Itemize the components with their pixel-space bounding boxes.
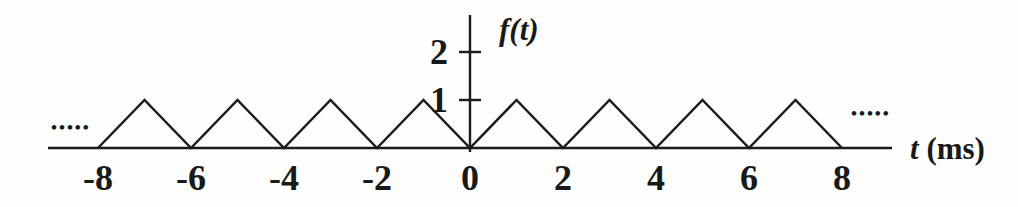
t-axis-tick-label-0: 0	[461, 158, 479, 198]
t-axis-label-unit: (ms)	[919, 131, 985, 166]
t-axis-tick-label-2: 2	[554, 158, 572, 198]
f-axis-tick-label-2: 2	[430, 32, 448, 72]
t-axis-tick-label--4: -4	[269, 158, 299, 198]
t-axis-label: t (ms)	[910, 131, 985, 166]
f-axis-label: f(t)	[499, 12, 539, 47]
waveform-figure: 12-8-6-4-202468••••••••••f(t)t (ms)	[0, 0, 1018, 207]
t-axis-tick-label--2: -2	[362, 158, 392, 198]
t-axis-tick-label-4: 4	[647, 158, 665, 198]
waveform-plot: 12-8-6-4-202468••••••••••f(t)t (ms)	[0, 0, 1018, 207]
t-axis-tick-label--8: -8	[83, 158, 113, 198]
t-axis-tick-label-8: 8	[833, 158, 851, 198]
continuation-dots-right: •••••	[851, 104, 891, 123]
continuation-dots-left: •••••	[51, 118, 91, 137]
t-axis-tick-label--6: -6	[176, 158, 206, 198]
t-axis-tick-label-6: 6	[740, 158, 758, 198]
f-axis-tick-label-1: 1	[430, 80, 448, 120]
